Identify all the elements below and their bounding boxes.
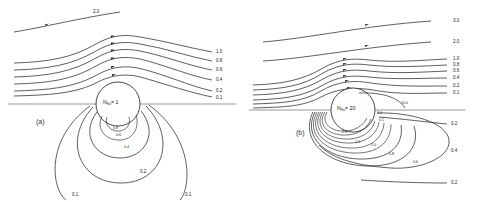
sphere-label-a-value: = 1 [111,99,118,105]
panel-label-b: (b) [296,129,305,137]
contour-label-b-0.6: 0.6 [453,68,460,73]
contour-label-a-0.1: 0.1 [216,95,223,100]
contour-label-b-wake-5.0: 5.0 [377,111,382,115]
panel-a: 2.0 1.0 0.8 0.6 0.4 0.2 0.1 0.8 0.6 0.4 … [0,0,241,202]
streamline-arrow [365,45,369,47]
contour-label-b-2.0: 2.0 [453,39,460,44]
contour-label-a-lower-0.2: 0.2 [140,169,147,174]
streamline-arrow-group-a [111,36,116,77]
sphere-label-b-value: = 20 [345,105,355,111]
contour-label-a-2.0: 2.0 [93,9,100,14]
contour-label-b-0.1: 0.1 [453,90,460,95]
contour-label-b-lower-0.2: 0.2 [451,180,458,185]
contour-label-a-1.0: 1.0 [216,49,223,54]
contour-label-a-lower-0.1-left: 0.1 [72,192,79,197]
contour-label-b-wake-10.0: 10.0 [401,101,408,105]
streamline-b-2.0 [263,42,431,61]
contour-label-b-wake-1.0: 1.0 [371,143,376,147]
contour-label-b-1.0: 1.0 [453,56,460,61]
panel-b: 3.0 2.0 1.0 0.8 0.6 0.4 0.2 0.1 0.2 0.4 … [241,0,482,202]
contour-label-b-0.8: 0.8 [453,62,460,67]
contour-label-b-0.4: 0.4 [453,75,460,80]
streamline-b-right-0.2 [379,117,447,124]
contour-label-b-wake-0.8: 0.8 [389,152,394,156]
contour-label-a-0.6: 0.6 [216,67,223,72]
streamline-a-0.4 [14,57,212,84]
streamline-b-3.0 [263,21,431,42]
streamline-arrow [365,24,369,26]
contour-label-a-0.4: 0.4 [216,77,223,82]
contour-label-b-wake-1.5: 1.5 [355,140,360,144]
contour-label-a-lower-0.1-right: 0.1 [185,192,192,197]
contour-label-b-right-0.4: 0.4 [451,148,458,153]
contour-label-a-lower-0.4: 0.4 [124,145,129,149]
streamline-a-lower-0.1-right [149,105,187,200]
figure-container: 2.0 1.0 0.8 0.6 0.4 0.2 0.1 0.8 0.6 0.4 … [0,0,482,202]
contour-label-b-3.0: 3.0 [453,18,460,23]
contour-label-b-wake-2.0: 2.0 [342,130,347,134]
streamline-a-lower-0.1-left [55,106,90,200]
contour-label-b-0.2: 0.2 [453,83,460,88]
contour-label-a-lower-0.6: 0.6 [116,133,121,137]
panel-label-a: (a) [36,118,45,126]
streamline-a-0.8 [14,42,212,70]
contour-label-b-wake-0.1: 0.1 [379,118,384,122]
contour-label-a-0.2: 0.2 [216,88,223,93]
contour-label-a-0.8: 0.8 [216,58,223,63]
contour-label-a-lower-0.8: 0.8 [113,126,118,130]
streamline-a-2.0 [14,12,120,32]
contour-label-b-wake-0.6: 0.6 [413,160,418,164]
streamline-arrow-group-b [343,24,369,89]
contour-label-b-right-0.2: 0.2 [451,121,458,126]
streamline-b-lower-0.2 [361,180,447,183]
